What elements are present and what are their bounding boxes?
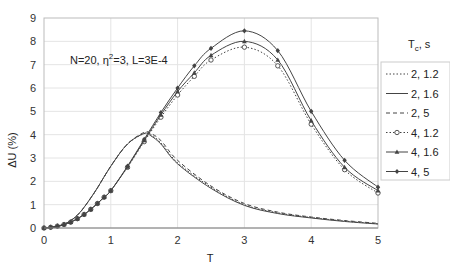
x-axis-label: T	[207, 252, 214, 264]
series-line	[44, 133, 378, 228]
data-point	[242, 28, 246, 33]
series-line	[44, 133, 378, 228]
x-tick-label: 3	[241, 234, 247, 246]
x-ticks: 012345	[41, 234, 381, 246]
y-tick-label: 5	[30, 105, 36, 117]
data-point	[209, 53, 214, 57]
series-4-1-2	[42, 45, 380, 230]
x-tick-label: 4	[308, 234, 314, 246]
annotation: N=20, η2=3, L=3E-4	[70, 52, 168, 66]
legend-label: 2, 1.2	[411, 68, 439, 80]
y-ticks: 0123456789	[30, 12, 36, 234]
legend-label: 4, 1.2	[411, 127, 439, 139]
y-tick-label: 9	[30, 12, 36, 24]
series-2-1-2	[44, 133, 378, 228]
data-point	[209, 46, 213, 51]
x-tick-label: 1	[108, 234, 114, 246]
y-axis-label: ΔU (%)	[6, 132, 18, 167]
legend-label: 2, 1.6	[411, 88, 439, 100]
data-point	[376, 185, 380, 190]
y-tick-label: 3	[30, 152, 36, 164]
legend-marker	[395, 130, 399, 134]
y-tick-label: 2	[30, 175, 36, 187]
legend-title: Tc, s	[408, 38, 431, 53]
x-tick-label: 0	[41, 234, 47, 246]
y-tick-label: 0	[30, 222, 36, 234]
y-tick-label: 7	[30, 59, 36, 71]
chart: 0123456789 012345 N=20, η2=3, L=3E-4 ΔU …	[0, 0, 450, 280]
legend-label: 2, 5	[411, 107, 429, 119]
x-tick-label: 2	[175, 234, 181, 246]
data-point	[242, 45, 246, 49]
y-tick-label: 8	[30, 35, 36, 47]
y-tick-label: 6	[30, 82, 36, 94]
y-tick-label: 4	[30, 129, 36, 141]
x-tick-label: 5	[375, 234, 381, 246]
series-2-1-6	[44, 133, 378, 228]
y-tick-label: 1	[30, 199, 36, 211]
legend-label: 4, 1.6	[411, 146, 439, 158]
legend-label: 4, 5	[411, 166, 429, 178]
data-point	[209, 58, 213, 62]
data-point	[276, 64, 280, 68]
